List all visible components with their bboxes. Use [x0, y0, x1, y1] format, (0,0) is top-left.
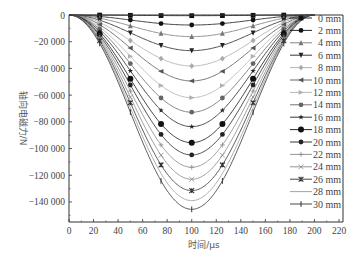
x-tick-label: 20	[89, 226, 99, 236]
legend-label: 30 mm	[313, 199, 341, 210]
legend-label: 16 mm	[313, 112, 341, 123]
x-tick-label: 40	[113, 226, 123, 236]
series-line-6mm	[69, 15, 314, 51]
data-point-8mm	[220, 56, 225, 62]
y-tick-label: −120 000	[29, 171, 65, 181]
data-point-18mm	[158, 121, 164, 127]
legend-label: 26 mm	[313, 174, 341, 185]
x-axis-title: 时间/μs	[188, 239, 220, 250]
x-tick-label: 200	[307, 226, 322, 236]
series-line-28mm	[69, 15, 314, 201]
legend-label: 18 mm	[313, 124, 341, 135]
data-point-18mm	[250, 76, 256, 82]
data-point-8mm	[251, 38, 256, 44]
x-tick-label: 160	[258, 226, 273, 236]
x-tick-label: 60	[138, 226, 148, 236]
legend-label: 4 mm	[318, 37, 341, 48]
data-point-14mm	[220, 96, 225, 101]
y-tick-label: −80 000	[34, 117, 66, 127]
data-point-22mm	[189, 165, 194, 170]
legend-marker	[299, 28, 304, 33]
axes: 0204060801001201401601802002200−20 000−4…	[29, 11, 347, 237]
legend-label: 8 mm	[318, 62, 341, 73]
legend: 0 mm2 mm4 mm6 mm8 mm10 mm12 mm14 mm16 mm…	[290, 13, 341, 210]
data-point-14mm	[251, 61, 256, 66]
legend-marker	[299, 152, 304, 157]
data-point-0mm	[159, 13, 164, 18]
y-tick-label: −60 000	[34, 91, 66, 101]
legend-label: 28 mm	[313, 186, 341, 197]
data-point-2mm	[189, 23, 194, 28]
data-point-18mm	[189, 140, 195, 146]
data-point-24mm	[251, 95, 256, 100]
x-tick-label: 0	[67, 226, 72, 236]
data-point-6mm	[128, 30, 133, 35]
x-tick-label: 140	[234, 226, 249, 236]
legend-label: 2 mm	[318, 25, 341, 36]
data-point-24mm	[128, 95, 133, 100]
x-tick-label: 120	[209, 226, 224, 236]
data-point-2mm	[251, 18, 256, 23]
data-point-20mm	[189, 153, 194, 158]
legend-label: 24 mm	[313, 161, 341, 172]
legend-label: 10 mm	[313, 75, 341, 86]
x-tick-label: 80	[162, 226, 172, 236]
legend-marker	[299, 65, 304, 71]
data-point-12mm	[189, 95, 194, 100]
series-markers	[97, 13, 287, 213]
data-point-10mm	[189, 79, 194, 84]
data-point-8mm	[189, 63, 194, 69]
legend-marker	[299, 102, 304, 107]
legend-marker	[298, 78, 303, 83]
data-point-10mm	[220, 69, 225, 74]
data-point-14mm	[128, 61, 133, 66]
data-point-14mm	[159, 96, 164, 101]
legend-label: 14 mm	[313, 99, 341, 110]
data-point-24mm	[220, 153, 225, 158]
data-point-8mm	[128, 38, 133, 44]
legend-marker	[298, 127, 304, 133]
data-point-20mm	[251, 83, 256, 88]
y-axis-title: 轴向电磁力/N	[18, 91, 29, 146]
data-point-2mm	[159, 21, 164, 26]
y-tick-label: −20 000	[34, 37, 66, 47]
y-tick-label: −100 000	[29, 144, 65, 154]
x-tick-label: 100	[185, 226, 200, 236]
legend-marker	[299, 90, 304, 95]
x-tick-label: 220	[332, 226, 347, 236]
data-point-26mm	[159, 162, 164, 167]
data-point-2mm	[128, 18, 133, 23]
legend-label: 0 mm	[318, 13, 341, 24]
data-point-20mm	[220, 132, 225, 137]
data-point-18mm	[219, 121, 225, 127]
legend-label: 20 mm	[313, 137, 341, 148]
legend-label: 6 mm	[318, 50, 341, 61]
x-tick-label: 180	[283, 226, 298, 236]
y-tick-label: −140 000	[29, 197, 65, 207]
data-point-14mm	[189, 110, 194, 115]
data-point-8mm	[159, 56, 164, 62]
y-tick-label: −40 000	[34, 64, 66, 74]
legend-marker	[299, 140, 304, 145]
data-point-0mm	[220, 13, 225, 18]
legend-label: 22 mm	[313, 149, 341, 160]
data-point-2mm	[220, 21, 225, 26]
data-point-20mm	[128, 83, 133, 88]
chart: 0204060801001201401601802002200−20 000−4…	[0, 0, 363, 260]
data-point-18mm	[127, 76, 133, 82]
data-point-20mm	[159, 132, 164, 137]
legend-label: 12 mm	[313, 87, 341, 98]
data-point-26mm	[220, 162, 225, 167]
legend-marker	[299, 16, 304, 21]
data-point-24mm	[159, 153, 164, 158]
y-tick-label: 0	[60, 11, 65, 21]
data-point-0mm	[189, 13, 194, 18]
data-point-6mm	[251, 30, 256, 35]
